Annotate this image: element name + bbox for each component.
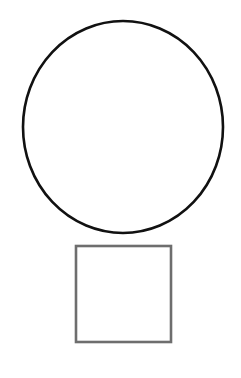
shapes-figure — [0, 0, 241, 378]
drawing-canvas — [0, 0, 241, 378]
